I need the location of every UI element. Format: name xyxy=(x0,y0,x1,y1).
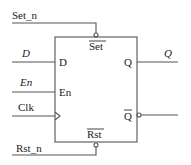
set-n-label: Set_n xyxy=(12,9,38,21)
flip-flop-diagram: Set_n Set D D En En Clk Rst_n Rst Q Q Q xyxy=(0,0,191,165)
set-n-wire xyxy=(12,23,96,33)
clk-input-label: Clk xyxy=(18,101,34,113)
d-pin-label: D xyxy=(59,56,67,68)
d-input-label: D xyxy=(21,47,30,59)
qbar-inversion-bubble xyxy=(137,113,141,117)
qbar-pin-label: Q xyxy=(124,110,132,122)
q-pin-label: Q xyxy=(124,56,132,68)
set-pin-label: Set xyxy=(89,40,103,52)
clock-edge-icon xyxy=(55,112,60,120)
set-inversion-bubble xyxy=(94,33,98,37)
rst-n-label: Rst_n xyxy=(16,142,42,154)
rst-inversion-bubble xyxy=(94,143,98,147)
en-input-label: En xyxy=(19,76,33,88)
q-output-label: Q xyxy=(164,47,172,59)
rst-pin-label: Rst xyxy=(87,128,102,140)
en-pin-label: En xyxy=(59,86,72,98)
